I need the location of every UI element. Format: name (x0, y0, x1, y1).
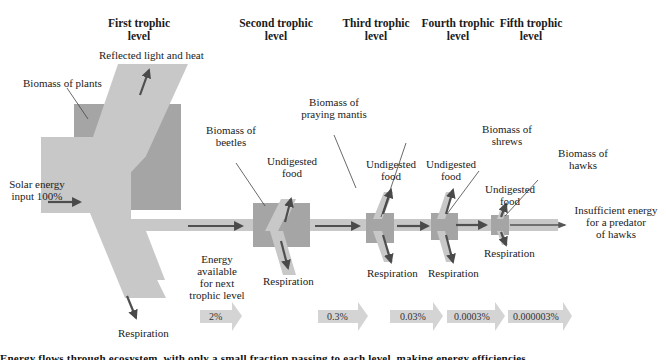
energy-pct-3: 0.3% (327, 311, 348, 323)
label-solar-input: Solar energyinput 100% (4, 178, 70, 202)
label-insufficient-energy: Insufficient energy for a predator of ha… (566, 204, 666, 240)
energy-pct-4: 0.03% (400, 311, 426, 323)
label-undigested-food-3: Undigestedfood (363, 158, 419, 182)
label-energy-available: Energy available for next trophic level (184, 253, 250, 301)
label-undigested-food-4: Undigestedfood (423, 158, 479, 182)
energy-pct-2: 2% (209, 311, 222, 323)
label-respiration-1: Respiration (118, 327, 169, 339)
header-second-trophic-level: Second trophiclevel (233, 17, 319, 43)
label-biomass-hawks: Biomass ofhawks (555, 147, 611, 171)
header-third-trophic-level: Third trophiclevel (338, 17, 414, 43)
label-biomass-beetles: Biomass ofbeetles (203, 124, 259, 148)
header-first-trophic-level: First trophiclevel (98, 17, 180, 43)
label-undigested-food-5: Undigestedfood (482, 183, 538, 207)
header-fifth-trophic-level: Fifth trophiclevel (498, 17, 564, 43)
label-respiration-4: Respiration (428, 267, 479, 279)
label-respiration-2: Respiration (263, 275, 314, 287)
header-fourth-trophic-level: Fourth trophiclevel (418, 17, 498, 43)
label-biomass-plants: Biomass of plants (23, 77, 102, 89)
energy-pct-5: 0.0003% (454, 311, 490, 323)
label-respiration-3: Respiration (367, 267, 418, 279)
label-biomass-shrews: Biomass ofshrews (481, 123, 533, 147)
figure-caption-cropped: Energy flows through ecosystem, with onl… (0, 345, 666, 360)
energy-pct-6: 0.000003% (513, 311, 559, 323)
label-respiration-5: Respiration (484, 247, 535, 259)
label-biomass-mantis: Biomass ofpraying mantis (296, 96, 372, 120)
label-reflected-light: Reflected light and heat (99, 49, 204, 61)
label-undigested-food-2: Undigestedfood (264, 155, 320, 179)
